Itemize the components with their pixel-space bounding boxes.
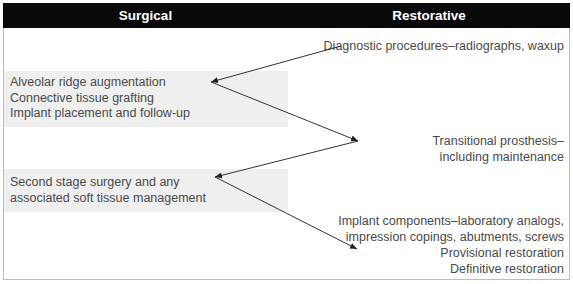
arrow-transitional-to-second-stage bbox=[215, 141, 358, 177]
flow-arrows bbox=[0, 0, 573, 284]
arrow-diagnostic-to-ridge bbox=[211, 46, 341, 82]
arrow-ridge-to-transitional bbox=[211, 82, 358, 141]
arrow-second-stage-to-components bbox=[215, 177, 357, 249]
